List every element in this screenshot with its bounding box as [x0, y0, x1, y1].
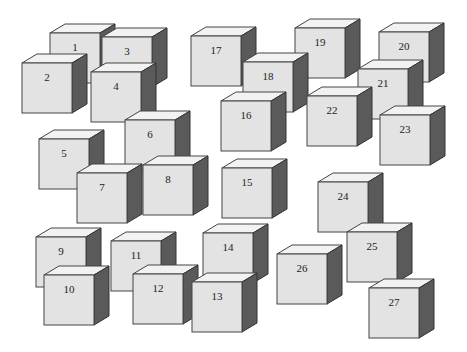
cube-label: 23	[400, 123, 412, 135]
cube-diagram-svg: 1920117318221422162365815724251491126121…	[0, 0, 467, 352]
cube-side-face	[193, 156, 208, 215]
cube-label: 21	[378, 77, 389, 89]
cube-side-face	[271, 92, 286, 151]
cube-13: 13	[192, 273, 257, 332]
cube-label: 13	[212, 290, 224, 302]
cube-label: 20	[399, 40, 411, 52]
cube-25: 25	[347, 223, 412, 282]
cube-side-face	[397, 223, 412, 282]
cube-27: 27	[369, 279, 434, 338]
cube-side-face	[242, 273, 257, 332]
cube-12: 12	[133, 265, 198, 324]
cube-label: 14	[223, 241, 235, 253]
cube-side-face	[272, 159, 287, 218]
cube-side-face	[430, 106, 445, 165]
cube-side-face	[293, 53, 308, 112]
cube-label: 24	[338, 190, 350, 202]
cube-label: 5	[61, 147, 67, 159]
cube-8: 8	[143, 156, 208, 215]
cube-label: 11	[131, 249, 142, 261]
cube-label: 3	[124, 45, 130, 57]
cube-label: 26	[297, 262, 309, 274]
cube-2: 2	[22, 54, 87, 113]
cube-label: 16	[241, 109, 253, 121]
cube-label: 25	[367, 240, 379, 252]
cube-label: 17	[211, 44, 223, 56]
cube-label: 1	[72, 41, 78, 53]
cube-label: 4	[113, 80, 119, 92]
cube-7: 7	[77, 164, 142, 223]
cube-26: 26	[277, 245, 342, 304]
cube-label: 22	[327, 104, 338, 116]
cube-side-face	[72, 54, 87, 113]
cube-label: 12	[153, 282, 164, 294]
cube-10: 10	[44, 266, 109, 325]
cube-label: 27	[389, 296, 401, 308]
cube-label: 19	[315, 36, 327, 48]
cube-side-face	[94, 266, 109, 325]
cube-side-face	[419, 279, 434, 338]
cube-23: 23	[380, 106, 445, 165]
cube-label: 8	[165, 173, 171, 185]
cube-label: 10	[64, 283, 76, 295]
cube-label: 18	[263, 70, 275, 82]
cube-22: 22	[307, 87, 372, 146]
cube-16: 16	[221, 92, 286, 151]
cube-label: 2	[44, 71, 50, 83]
cube-side-face	[357, 87, 372, 146]
cube-label: 6	[147, 128, 153, 140]
cube-side-face	[327, 245, 342, 304]
cube-15: 15	[222, 159, 287, 218]
cube-label: 9	[58, 245, 64, 257]
cube-label: 15	[242, 176, 254, 188]
cube-side-face	[127, 164, 142, 223]
cube-diagram: 1920117318221422162365815724251491126121…	[0, 0, 467, 352]
cube-label: 7	[99, 181, 105, 193]
cube-side-face	[429, 23, 444, 82]
